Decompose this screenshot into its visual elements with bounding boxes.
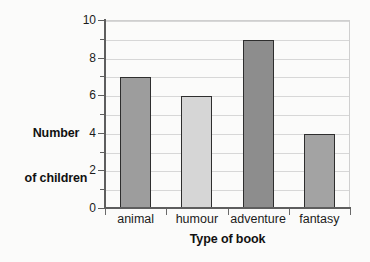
plot-area (105, 20, 350, 208)
y-axis-tick-minor (100, 39, 105, 40)
y-axis-tick-major (98, 170, 105, 171)
y-axis-tick-label: 4 (72, 127, 96, 139)
x-axis-label-humour: humour (166, 212, 227, 226)
y-axis-tick-major (98, 133, 105, 134)
y-axis-tick-major (98, 208, 105, 209)
y-axis-tick-minor (100, 152, 105, 153)
y-axis-tick-minor (100, 189, 105, 190)
y-axis-tick-major (98, 95, 105, 96)
y-axis-tick-minor (100, 76, 105, 77)
y-axis-tick-minor (100, 114, 105, 115)
x-axis-label-animal: animal (105, 212, 166, 226)
x-axis-tick (350, 209, 351, 215)
bar-animal (120, 77, 151, 209)
y-axis-tick-label: 6 (72, 89, 96, 101)
bar-chart: Number of children 0246810 animalhumoura… (0, 0, 370, 262)
x-axis-title: Type of book (105, 232, 350, 247)
y-axis-tick-label: 0 (72, 202, 96, 214)
gridline (105, 59, 349, 60)
y-axis-tick-major (98, 58, 105, 59)
y-axis-tick-label: 10 (72, 14, 96, 26)
bar-adventure (243, 40, 274, 209)
gridline (105, 40, 349, 41)
x-axis-label-adventure: adventure (228, 212, 289, 226)
gridline (105, 21, 349, 22)
y-axis-tick-major (98, 20, 105, 21)
bar-fantasy (304, 134, 335, 209)
y-axis-title: Number of children (14, 96, 98, 216)
y-axis-tick-label: 8 (72, 52, 96, 64)
x-axis-label-fantasy: fantasy (289, 212, 350, 226)
y-axis-tick-label: 2 (72, 164, 96, 176)
bar-humour (181, 96, 212, 209)
